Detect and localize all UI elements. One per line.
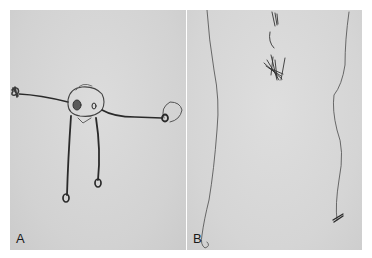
- panel-b-drawing: B: [187, 10, 362, 250]
- panel-label-b: B: [193, 232, 202, 245]
- wavy-lines-drawing: [187, 10, 362, 250]
- left-hand-scribble: [12, 87, 19, 97]
- scribble-mark: [264, 12, 285, 80]
- panel-label-a: A: [16, 232, 25, 245]
- panel-a-drawing: A: [10, 10, 186, 250]
- human-figure-drawing: [10, 10, 186, 250]
